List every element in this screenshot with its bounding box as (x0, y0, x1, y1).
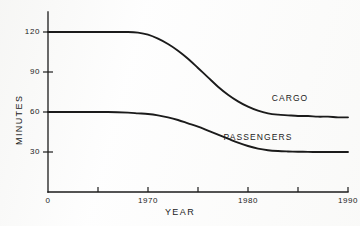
series-label-passengers: PASSENGERS (224, 132, 293, 142)
x-axis-title: YEAR (0, 207, 360, 217)
y-axis-title: MINUTES (14, 95, 24, 145)
x-tick-label: 1990 (328, 196, 360, 205)
y-tick-label: 30 (4, 147, 40, 156)
chart-figure: 306090120 0197019801990 CARGOPASSENGERS … (0, 0, 360, 226)
y-tick-label: 90 (4, 67, 40, 76)
x-tick-label: 1980 (228, 196, 268, 205)
series-line-cargo (48, 32, 348, 117)
line-chart-plot (0, 0, 360, 226)
y-tick-label: 120 (4, 27, 40, 36)
x-axis-ticks (98, 187, 348, 192)
series-line-passengers (48, 112, 348, 152)
x-tick-label: 1970 (128, 196, 168, 205)
x-tick-label: 0 (28, 196, 68, 205)
series-label-cargo: CARGO (272, 93, 309, 103)
